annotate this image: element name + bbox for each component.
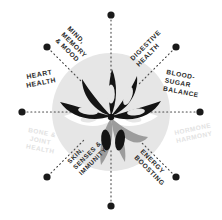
dot-left-icon — [18, 108, 25, 115]
dot-right-icon — [196, 108, 203, 115]
flower-center-icon — [108, 114, 114, 120]
wheel-canvas: MIND, MEMORY & MOOD DIGESTIVE HEALTH HEA… — [0, 0, 222, 220]
label-digestive-health[interactable]: DIGESTIVE HEALTH — [129, 28, 168, 67]
health-benefits-wheel: MIND, MEMORY & MOOD DIGESTIVE HEALTH HEA… — [0, 0, 222, 220]
dot-top-left-icon — [43, 43, 50, 50]
label-hormone-harmony[interactable]: HORMONE HARMONY — [174, 121, 214, 144]
dot-bottom-right-icon — [172, 173, 179, 180]
label-blood-sugar-balance[interactable]: BLOOD- SUGAR BALANCE — [163, 68, 203, 98]
label-blood-sugar-balance-line-3: BALANCE — [163, 85, 200, 99]
dot-bottom-icon — [107, 202, 114, 209]
label-heart-health[interactable]: HEART HEALTH — [24, 68, 57, 89]
petal-upper-center-hole-icon — [107, 85, 115, 104]
label-bone-joint-health[interactable]: BONE & JOINT HEALTH — [25, 126, 59, 155]
dot-bottom-left-icon — [43, 173, 50, 180]
dot-top-right-icon — [172, 43, 179, 50]
dot-top-icon — [107, 11, 114, 18]
label-bone-joint-health-line-3: HEALTH — [26, 142, 56, 154]
